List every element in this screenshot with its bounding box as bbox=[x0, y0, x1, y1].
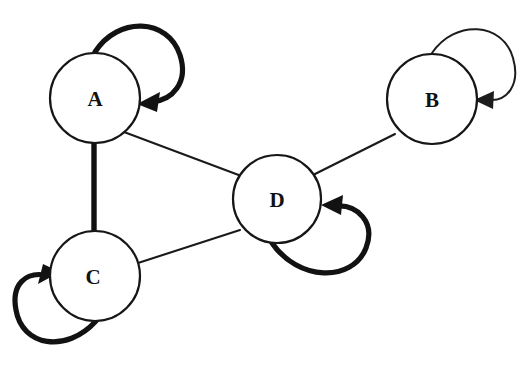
node-a-label: A bbox=[87, 87, 103, 111]
edge-d-b[interactable] bbox=[311, 134, 395, 176]
node-d-label: D bbox=[269, 188, 284, 212]
edge-c-d[interactable] bbox=[138, 230, 240, 263]
edge-a-d[interactable] bbox=[124, 132, 244, 177]
node-c[interactable]: C bbox=[50, 231, 140, 321]
state-transition-graph-figure: A B C D bbox=[0, 0, 523, 373]
loop-d-arrowhead bbox=[321, 195, 343, 215]
node-a[interactable]: A bbox=[50, 53, 140, 143]
node-b[interactable]: B bbox=[387, 54, 477, 144]
node-layer: A B C D bbox=[50, 53, 477, 321]
node-b-label: B bbox=[425, 88, 439, 112]
node-c-label: C bbox=[85, 265, 100, 289]
graph-canvas: A B C D bbox=[0, 0, 523, 373]
node-d[interactable]: D bbox=[233, 155, 321, 243]
